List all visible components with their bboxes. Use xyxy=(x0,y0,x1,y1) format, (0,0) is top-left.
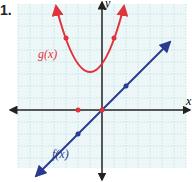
g-point xyxy=(64,36,69,41)
g-point xyxy=(76,108,81,113)
g-point xyxy=(100,108,105,113)
x-axis-label: x xyxy=(185,94,192,108)
f-label: f(x) xyxy=(52,147,69,161)
y-axis-label: y xyxy=(104,0,111,10)
f-point xyxy=(124,84,129,89)
f-point xyxy=(76,132,81,137)
g-label: g(x) xyxy=(38,47,57,61)
coordinate-graph: x y g(x) f(x) xyxy=(0,0,192,182)
g-point xyxy=(112,36,117,41)
